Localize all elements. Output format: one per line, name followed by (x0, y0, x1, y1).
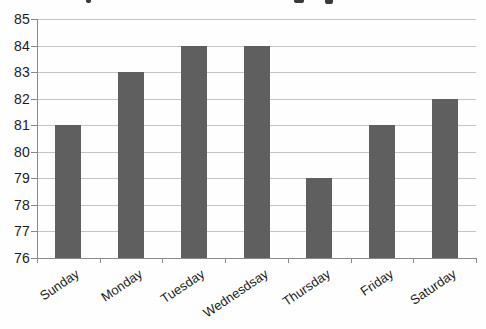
x-axis-label: Thursday (280, 267, 332, 308)
x-axis-line (37, 258, 476, 259)
y-axis-line (37, 19, 38, 258)
y-axis-label: 85 (0, 12, 30, 26)
cropped-title-fragment (325, 0, 333, 4)
y-axis-label: 83 (0, 65, 30, 79)
bar (369, 125, 395, 258)
x-axis-label: Sunday (38, 267, 82, 302)
x-axis-label: Wednesdsay (200, 267, 269, 320)
y-axis-label: 78 (0, 198, 30, 212)
bar (118, 72, 144, 258)
gridline (37, 19, 476, 20)
bar-chart: 85848382818079787776SundayMondayTuesdayW… (0, 0, 486, 329)
y-axis-label: 84 (0, 39, 30, 53)
bar (432, 99, 458, 258)
x-axis-tick (288, 258, 289, 263)
x-axis-tick (225, 258, 226, 263)
cropped-title-fragment (86, 0, 91, 3)
x-axis-tick (37, 258, 38, 263)
x-axis-tick (351, 258, 352, 263)
x-axis-label: Saturday (408, 267, 458, 307)
y-axis-label: 82 (0, 92, 30, 106)
bar (181, 46, 207, 258)
cropped-title-fragment (294, 0, 304, 3)
x-axis-tick (100, 258, 101, 263)
y-axis-label: 77 (0, 224, 30, 238)
x-axis-tick (476, 258, 477, 263)
y-axis-label: 81 (0, 118, 30, 132)
x-axis-label: Friday (358, 267, 395, 298)
y-axis-label: 76 (0, 251, 30, 265)
y-axis-label: 79 (0, 171, 30, 185)
x-axis-tick (162, 258, 163, 263)
bar (244, 46, 270, 258)
bar (55, 125, 81, 258)
bar (306, 178, 332, 258)
y-axis-label: 80 (0, 145, 30, 159)
x-axis-label: Tuesday (159, 267, 207, 305)
x-axis-label: Monday (99, 267, 145, 304)
x-axis-tick (413, 258, 414, 263)
